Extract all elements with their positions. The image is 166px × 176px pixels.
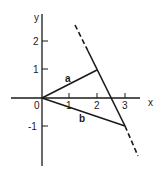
x-tick-label-1: 1 xyxy=(66,100,72,111)
connecting-line xyxy=(75,25,138,156)
vector-diagram: y x 0 1 2 3 2 1 -1 a b xyxy=(0,0,166,176)
x-axis-label: x xyxy=(148,97,153,108)
y-ticks xyxy=(42,41,48,126)
axes xyxy=(11,14,140,166)
y-tick-label-1: 1 xyxy=(33,64,39,75)
x-tick-label-3: 3 xyxy=(122,100,128,111)
vector-b-label: b xyxy=(79,113,85,124)
vector-a-label: a xyxy=(65,73,71,84)
y-tick-label-neg1: -1 xyxy=(28,121,37,132)
y-axis-label: y xyxy=(34,12,39,23)
x-ticks xyxy=(69,93,125,98)
dashed-line-lower xyxy=(125,126,138,156)
x-tick-label-2: 2 xyxy=(94,100,100,111)
origin-label: 0 xyxy=(34,100,40,111)
y-tick-label-2: 2 xyxy=(33,36,39,47)
dashed-line-upper xyxy=(75,25,88,51)
